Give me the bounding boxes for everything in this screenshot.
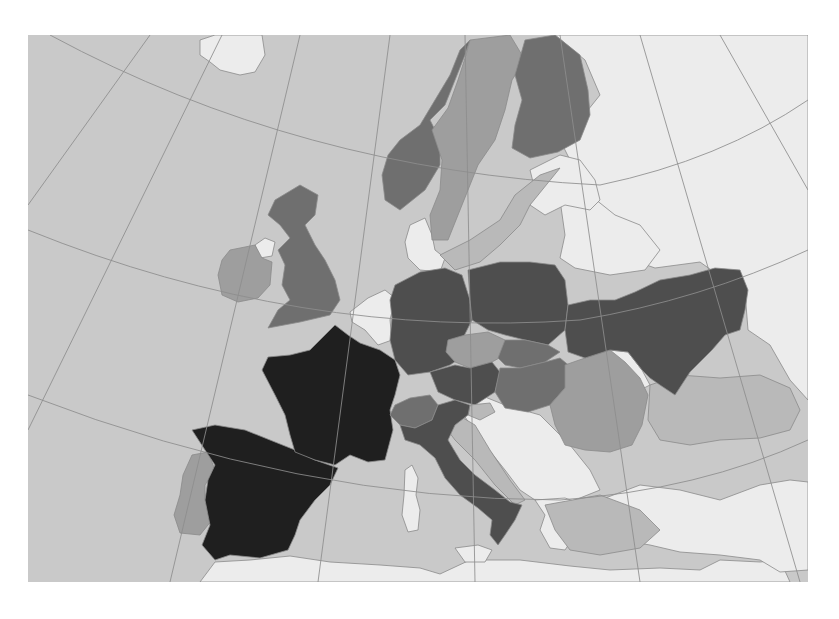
- map-frame: North Africa Russia Belarus Baltic state…: [28, 35, 808, 582]
- europe-choropleth-map: North Africa Russia Belarus Baltic state…: [28, 35, 808, 582]
- country-finland[interactable]: Finland: [512, 35, 590, 158]
